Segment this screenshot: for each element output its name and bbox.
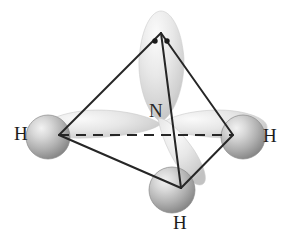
hydrogen-right-sphere: [221, 115, 265, 159]
lone-pair-dot-1: [152, 38, 157, 43]
molecular-orbital-figure: N H H H: [0, 0, 289, 240]
hydrogen-bottom-sphere: [149, 167, 195, 213]
hydrogen-right-label: H: [263, 126, 277, 145]
hydrogen-bottom-label: H: [173, 213, 187, 232]
molecule-canvas: [0, 0, 289, 240]
hydrogen-left-label: H: [14, 124, 28, 143]
central-atom-label: N: [149, 101, 163, 120]
edge-left-bottom: [59, 135, 181, 188]
lone-pair-dot-2: [164, 38, 169, 43]
